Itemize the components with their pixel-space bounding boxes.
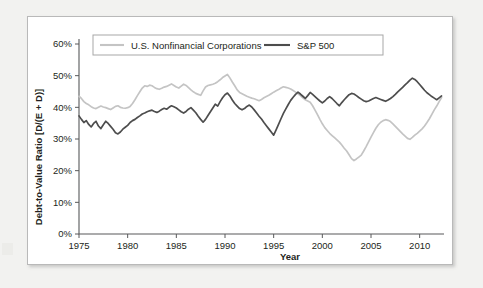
y-axis-tick-labels: 0%10%20%30%40%50%60% [53,38,73,239]
x-axis-title: Year [280,251,300,262]
x-tick-label: 2000 [312,240,333,251]
x-axis-ticks [79,234,420,238]
y-tick-label: 10% [53,197,73,208]
x-tick-label: 1975 [68,240,89,251]
legend-label-sp500: S&P 500 [297,40,334,51]
chart-plot-area: 0%10%20%30%40%50%60% 1975198019851990199… [28,17,454,266]
y-tick-label: 50% [53,70,73,81]
figure-card: 0%10%20%30%40%50%60% 1975198019851990199… [27,16,453,265]
x-tick-label: 1990 [214,240,235,251]
page-edge-artifact [2,243,13,255]
y-axis-ticks [75,44,79,234]
y-tick-label: 0% [58,228,72,239]
legend-label-nonfinancial: U.S. Nonfinancial Corporations [131,40,262,51]
y-tick-label: 40% [53,102,73,113]
x-tick-label: 2005 [360,240,381,251]
x-axis-tick-labels: 19751980198519901995200020052010 [68,240,430,251]
line-chart: 0%10%20%30%40%50%60% 1975198019851990199… [28,17,454,266]
y-tick-label: 30% [53,133,73,144]
y-axis-title: Debt-to-Value Ratio [D/(E + D)] [33,89,44,225]
series-line-sp500 [79,78,442,135]
chart-axes [79,39,444,234]
y-tick-label: 60% [53,38,73,49]
x-tick-label: 1995 [263,240,284,251]
x-tick-label: 1980 [117,240,138,251]
x-tick-label: 1985 [166,240,187,251]
data-series-group [79,74,442,160]
chart-legend: U.S. Nonfinancial Corporations S&P 500 [93,35,383,55]
x-tick-label: 2010 [409,240,430,251]
y-tick-label: 20% [53,165,73,176]
